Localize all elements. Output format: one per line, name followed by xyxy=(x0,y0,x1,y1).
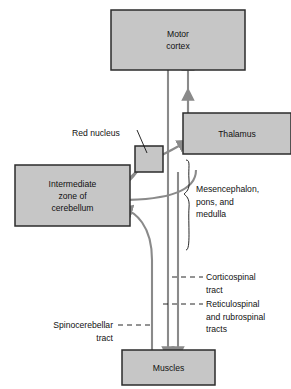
annotation-line: and rubrospinal xyxy=(206,312,265,322)
brace-path xyxy=(184,160,189,250)
box-label-thalamus: Thalamus xyxy=(218,129,256,139)
box-label-line: Thalamus xyxy=(218,129,256,139)
annotation-line: tract xyxy=(206,285,223,295)
annotation-spinocerebellar-tract: Spinocerebellartract xyxy=(53,320,113,343)
annotation-line: tract xyxy=(96,333,113,343)
diagram-canvas: MotorcortexThalamusIntermediatezone ofce… xyxy=(0,0,291,389)
box-label-line: Motor xyxy=(167,29,189,39)
annotation-line: Red nucleus xyxy=(72,128,120,138)
box-label-line: cortex xyxy=(166,41,190,51)
pathway-spinocerebellar-ascending xyxy=(124,209,152,358)
pathway-brainstem-to-cerebellum xyxy=(120,170,196,200)
annotation-line: Corticospinal xyxy=(206,272,256,282)
box-motor-cortex[interactable] xyxy=(111,10,245,70)
annotation-line: tracts xyxy=(206,324,227,334)
box-label-line: Muscles xyxy=(153,363,185,373)
box-label-line: cerebellum xyxy=(51,203,93,213)
annotation-line: medulla xyxy=(196,209,226,219)
motor-pathway-diagram: MotorcortexThalamusIntermediatezone ofce… xyxy=(0,0,291,389)
annotation-reticulospinal-rubrospinal-tracts: Reticulospinaland rubrospinaltracts xyxy=(206,299,265,334)
annotation-red-nucleus: Red nucleus xyxy=(72,128,120,138)
annotation-line: Spinocerebellar xyxy=(53,320,113,330)
dashed-leader-group xyxy=(118,277,203,325)
annotation-corticospinal-tract: Corticospinaltract xyxy=(206,272,256,295)
annotation-line: Mesencephalon, xyxy=(196,184,259,194)
annotation-mesencephalon-pons-medulla: Mesencephalon,pons, andmedulla xyxy=(196,184,259,219)
box-label-line: Intermediate xyxy=(49,179,97,189)
box-red-nucleus-box[interactable] xyxy=(135,146,163,172)
box-label-line: zone of xyxy=(58,191,87,201)
annotation-line: pons, and xyxy=(196,197,234,207)
box-label-muscles: Muscles xyxy=(153,363,185,373)
annotation-line: Reticulospinal xyxy=(206,299,260,309)
brainstem-brace xyxy=(184,160,189,250)
